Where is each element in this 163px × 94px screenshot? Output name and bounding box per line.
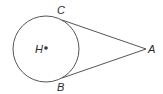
label-a: A xyxy=(147,43,155,55)
label-c: C xyxy=(57,4,65,16)
center-point-h xyxy=(44,46,48,50)
tangent-segment-ba xyxy=(62,49,146,78)
tangent-circle-diagram: H A C B xyxy=(0,0,163,94)
tangent-segment-ca xyxy=(62,20,146,49)
diagram-canvas: H A C B xyxy=(0,0,163,94)
label-b: B xyxy=(57,81,64,93)
label-h: H xyxy=(35,43,43,55)
